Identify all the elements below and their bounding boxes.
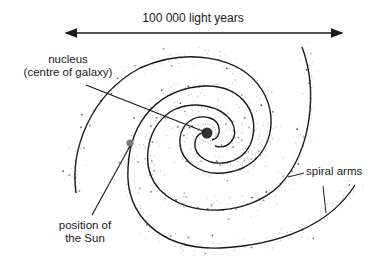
nucleus-label: nucleus (centre of galaxy) <box>18 53 118 79</box>
sun-marker <box>126 139 133 146</box>
nucleus <box>202 128 213 139</box>
sun-label-line2: the Sun <box>50 232 120 245</box>
sun-label: position of the Sun <box>50 219 120 245</box>
nucleus-label-line2: (centre of galaxy) <box>18 66 118 79</box>
nucleus-label-line1: nucleus <box>18 53 118 66</box>
scale-label: 100 000 light years <box>130 12 256 25</box>
arms-leader-2 <box>323 186 326 213</box>
sun-leader <box>92 146 130 215</box>
sun-label-line1: position of <box>50 219 120 232</box>
spiral-arms-label: spiral arms <box>306 165 381 178</box>
arms-leader-1 <box>288 173 304 177</box>
nucleus-leader <box>86 85 205 132</box>
